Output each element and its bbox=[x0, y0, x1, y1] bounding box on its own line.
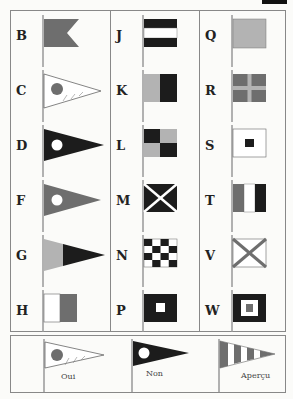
pennant-yellow-blue-icon bbox=[29, 233, 109, 288]
flag-letter: D bbox=[16, 138, 27, 153]
pennant-red-white-disc-icon bbox=[29, 178, 109, 233]
flag-letter: J bbox=[116, 28, 122, 43]
flag-letter: H bbox=[16, 303, 28, 318]
flag-cell-c: C bbox=[11, 68, 103, 123]
flag-cell-r: R bbox=[200, 68, 292, 123]
flag-letter: P bbox=[116, 303, 126, 318]
flag-cell-g: G bbox=[11, 233, 103, 288]
horizontal-blue-white-blue-flag-icon bbox=[129, 13, 209, 68]
vertical-red-white-blue-flag-icon bbox=[218, 178, 293, 233]
pennant-blue-white-disc-icon bbox=[29, 123, 109, 178]
pennant-label-non: Non bbox=[146, 369, 163, 378]
flag-letter: B bbox=[16, 28, 27, 43]
flag-cell-v: V bbox=[200, 233, 292, 288]
white-red-saltire-flag-icon bbox=[218, 233, 293, 288]
page-corner-mark bbox=[262, 0, 287, 4]
flag-cell-d: D bbox=[11, 123, 103, 178]
pennant-white-red-disc-icon bbox=[29, 68, 109, 123]
flag-cell-f: F bbox=[11, 178, 103, 233]
flag-cell-q: Q bbox=[200, 13, 292, 68]
flag-letter: L bbox=[116, 138, 125, 153]
flag-cell-n: N bbox=[111, 233, 203, 288]
flag-letter: K bbox=[116, 83, 127, 98]
answer-pennants-panel: Oui Non Aperçu bbox=[10, 335, 286, 393]
pennant-oui-icon bbox=[29, 336, 109, 394]
flag-letter: G bbox=[16, 248, 27, 263]
pennant-non-icon bbox=[117, 336, 197, 394]
quartered-flag-icon bbox=[129, 123, 209, 178]
flag-letter: S bbox=[205, 138, 214, 153]
pennant-apercu-icon bbox=[204, 336, 284, 394]
vertical-yellow-blue-flag-icon bbox=[129, 68, 209, 123]
flag-cell-m: M bbox=[111, 178, 203, 233]
flag-cell-t: T bbox=[200, 178, 292, 233]
flag-letter: Q bbox=[205, 28, 216, 43]
checkered-flag-icon bbox=[129, 233, 209, 288]
white-blue-square-flag-icon bbox=[218, 123, 293, 178]
swallowtail-flag-icon bbox=[29, 13, 109, 68]
flag-grid: B C D F G bbox=[10, 10, 286, 332]
flag-letter: C bbox=[16, 83, 26, 98]
flag-cell-b: B bbox=[11, 13, 103, 68]
flag-cell-j: J bbox=[111, 13, 203, 68]
pennant-label-oui: Oui bbox=[61, 372, 75, 381]
flag-letter: F bbox=[16, 193, 25, 208]
flag-letter: V bbox=[205, 248, 215, 263]
flag-letter: R bbox=[205, 83, 216, 98]
red-yellow-cross-flag-icon bbox=[218, 68, 293, 123]
flag-letter: T bbox=[205, 193, 215, 208]
flag-cell-k: K bbox=[111, 68, 203, 123]
pennant-label-apercu: Aperçu bbox=[241, 371, 270, 380]
solid-yellow-flag-icon bbox=[218, 13, 293, 68]
blue-white-saltire-flag-icon bbox=[129, 178, 209, 233]
flag-cell-s: S bbox=[200, 123, 292, 178]
flag-letter: N bbox=[116, 248, 128, 263]
flag-cell-l: L bbox=[111, 123, 203, 178]
